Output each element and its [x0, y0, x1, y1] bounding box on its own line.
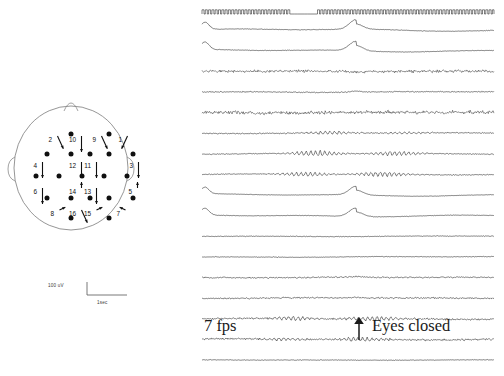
derivation-number: 2: [48, 136, 52, 143]
derivation-number: 1: [118, 136, 122, 143]
derivation-number: 3: [129, 162, 133, 169]
derivation-number: 8: [50, 210, 54, 217]
derivation-number: 6: [33, 188, 37, 195]
electrode-dot: [57, 174, 62, 179]
derivation-arrow: 6: [33, 188, 44, 204]
derivation-arrow: 2: [48, 136, 63, 149]
derivation-arrow: 12: [69, 162, 83, 178]
eeg-channel-trace: [202, 110, 494, 115]
derivation-arrow: 7: [116, 207, 125, 217]
arrow-head: [80, 182, 83, 185]
derivation-number: 15: [84, 210, 92, 217]
eeg-channel-trace: [202, 131, 494, 134]
eeg-channel-trace: [202, 236, 494, 237]
derivation-arrow: 14: [69, 182, 83, 195]
up-arrow-icon: [351, 315, 367, 341]
eeg-channel-trace: [202, 91, 494, 93]
electrode-dot: [88, 152, 93, 157]
eeg-channel-trace: [202, 20, 494, 32]
electrode-dot: [107, 196, 112, 201]
arrow-head: [95, 175, 98, 178]
derivation-number: 14: [69, 188, 77, 195]
electrode-dot: [131, 152, 136, 157]
electrode-dot: [69, 196, 74, 201]
scale-bar-graphic: 100 uV 1sec: [45, 278, 140, 308]
eeg-trace-panel: [196, 8, 498, 368]
figure-root: 12345678910111213141516 100 uV 1sec 7 fp…: [0, 0, 504, 376]
derivation-arrow: 15: [84, 207, 102, 217]
electrode-dot: [88, 196, 93, 201]
derivation-number: 7: [116, 210, 120, 217]
scale-bar-corner: [87, 282, 127, 295]
electrode-dot: [45, 196, 50, 201]
eeg-channel-trace: [202, 172, 494, 176]
electrode-dot: [107, 132, 112, 137]
eyes-closed-label: Eyes closed: [372, 316, 450, 336]
derivation-number: 10: [69, 136, 77, 143]
scale-bar-time-label: 1sec: [97, 300, 108, 305]
derivation-number: 5: [128, 188, 132, 195]
electrode-dot: [34, 174, 39, 179]
arrow-head: [41, 175, 44, 178]
derivation-number: 13: [84, 188, 92, 195]
derivation-number: 16: [69, 210, 77, 217]
eeg-traces: [196, 8, 498, 368]
head-diagram: 12345678910111213141516: [0, 98, 196, 248]
eeg-channel-trace: [202, 150, 494, 156]
derivation-arrow: 5: [128, 182, 139, 195]
scale-bar: 100 uV 1sec: [45, 278, 140, 308]
eeg-channel-trace: [202, 186, 494, 196]
arrow-head: [95, 201, 98, 204]
electrode-dot: [131, 196, 136, 201]
derivation-arrow: 9: [92, 136, 107, 149]
eeg-channel-trace: [202, 359, 494, 360]
derivation-arrow: 11: [84, 162, 98, 178]
eeg-channel-trace: [202, 276, 494, 279]
eeg-channel-trace: [202, 41, 494, 52]
electrode-dot: [102, 174, 107, 179]
derivation-number: 11: [84, 162, 91, 169]
annotation-row: 7 fps Eyes closed: [196, 316, 498, 348]
eeg-channel-trace: [202, 297, 494, 299]
derivation-number: 4: [33, 162, 37, 169]
arrow-head: [137, 175, 140, 178]
nose-outline: [64, 103, 78, 111]
photic-marker-trace: [202, 10, 494, 14]
derivation-arrow: 10: [69, 136, 83, 152]
electrode-dot: [69, 152, 74, 157]
derivation-number: 9: [92, 136, 96, 143]
arrow-head: [80, 149, 83, 152]
stimulus-rate-label: 7 fps: [204, 316, 237, 336]
arrow-head: [41, 201, 44, 204]
derivation-number: 12: [69, 162, 77, 169]
eeg-channel-trace: [202, 256, 494, 257]
electrode-dot: [45, 152, 50, 157]
scale-bar-amplitude-label: 100 uV: [48, 283, 64, 288]
eeg-channel-trace: [202, 70, 494, 74]
electrode-dot: [125, 174, 130, 179]
derivation-arrow: 3: [129, 162, 140, 178]
derivation-arrow: 8: [50, 207, 65, 217]
electrode-dot: [107, 216, 112, 221]
electrode-dot: [107, 152, 112, 157]
arrow-head: [136, 182, 139, 185]
eeg-channel-trace: [202, 208, 494, 217]
